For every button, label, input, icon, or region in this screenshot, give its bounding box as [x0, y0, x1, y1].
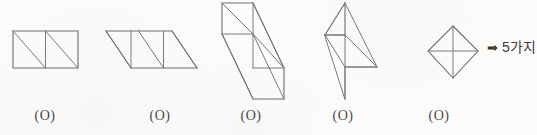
pinwheel-z-shape-stroke — [345, 3, 377, 67]
slanted-parallelogram-stroke — [139, 31, 164, 68]
figure-caption-2: (O) — [150, 108, 171, 124]
slanted-parallelogram-stroke — [106, 31, 131, 68]
two-squares-rectangle-stroke — [46, 31, 79, 68]
pinwheel-z-shape-stroke — [325, 35, 345, 67]
result-count-label: 5가지 — [502, 40, 536, 54]
figure-caption-5: (O) — [429, 108, 450, 124]
figure-caption-3: (O) — [241, 108, 262, 124]
descending-staircase-stroke — [253, 34, 284, 68]
descending-staircase-stroke — [222, 34, 253, 99]
slanted-parallelogram — [106, 31, 197, 68]
two-squares-rectangle-stroke — [13, 31, 46, 68]
result-annotation: ➡ 5가지 — [487, 40, 536, 54]
pinwheel-z-shape-stroke — [325, 3, 345, 35]
figure-caption-4: (O) — [333, 108, 354, 124]
figure-sheet: (O)(O)(O)(O)(O) ➡ 5가지 — [0, 0, 537, 135]
descending-staircase-stroke — [253, 34, 284, 99]
right-arrow-icon: ➡ — [487, 41, 498, 54]
descending-staircase — [222, 3, 284, 99]
figure-caption-1: (O) — [35, 108, 56, 124]
slanted-parallelogram-stroke — [172, 31, 197, 68]
diamond-with-medians — [428, 26, 478, 78]
figures-canvas — [0, 0, 537, 135]
descending-staircase-stroke — [222, 3, 253, 34]
two-squares-rectangle — [13, 31, 78, 68]
descending-staircase-stroke — [253, 3, 284, 68]
pinwheel-z-shape — [325, 3, 377, 99]
pinwheel-z-shape-stroke — [345, 35, 377, 67]
